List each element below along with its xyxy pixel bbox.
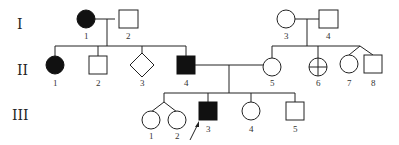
individual-II-4 [177, 56, 195, 74]
svg-text:1: 1 [149, 131, 154, 141]
svg-text:3: 3 [140, 78, 145, 88]
individual-II-5 [263, 58, 281, 76]
individual-III-4 [242, 102, 260, 120]
individual-II-8 [364, 55, 382, 73]
svg-text:6: 6 [316, 78, 321, 88]
svg-text:2: 2 [175, 131, 180, 141]
svg-text:3: 3 [284, 31, 289, 41]
proband-arrow-icon [190, 121, 199, 140]
individual-I-1 [77, 10, 95, 28]
gen1-right-couple: 3 4 [277, 10, 338, 46]
svg-text:4: 4 [184, 78, 189, 88]
svg-text:2: 2 [126, 31, 131, 41]
individual-II-3 [130, 53, 154, 77]
svg-text:7: 7 [347, 78, 352, 88]
individual-II-6 [309, 58, 327, 76]
gen1-left-couple: 1 2 [77, 10, 138, 46]
individual-II-1 [46, 56, 64, 74]
individual-III-2 [168, 111, 186, 129]
individual-II-2 [89, 56, 107, 74]
individual-I-4 [319, 10, 338, 28]
individual-III-3 [199, 102, 217, 120]
individual-III-1 [142, 111, 160, 129]
svg-text:4: 4 [326, 31, 331, 41]
svg-text:2: 2 [96, 78, 101, 88]
generation-label-II: II [17, 62, 28, 78]
individual-I-3 [277, 10, 295, 28]
pedigree-diagram: I II III 1 2 3 4 1 2 3 4 5 [0, 0, 399, 145]
individual-II-7 [340, 55, 358, 73]
svg-text:8: 8 [371, 78, 376, 88]
svg-text:5: 5 [293, 124, 298, 134]
generation-label-III: III [12, 107, 29, 123]
svg-text:1: 1 [84, 31, 89, 41]
svg-text:4: 4 [249, 124, 254, 134]
individual-I-2 [119, 10, 138, 28]
svg-text:3: 3 [206, 124, 211, 134]
generation-label-I: I [17, 16, 23, 32]
svg-text:5: 5 [270, 78, 275, 88]
individual-III-5 [286, 102, 304, 120]
svg-text:1: 1 [53, 78, 58, 88]
